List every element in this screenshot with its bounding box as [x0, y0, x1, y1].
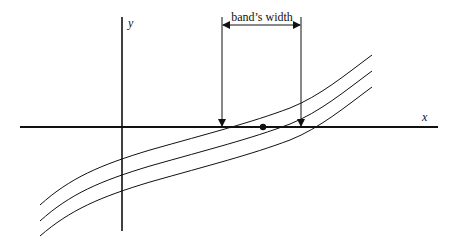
x-axis-label: x: [421, 110, 428, 124]
root-point: [260, 124, 266, 130]
upper-curve: [40, 55, 372, 205]
middle-curve: [40, 71, 372, 221]
band-diagram: band’s width y x: [0, 0, 458, 251]
y-axis-label: y: [127, 16, 134, 30]
band-width-label: band’s width: [231, 10, 293, 24]
lower-curve: [40, 87, 372, 236]
